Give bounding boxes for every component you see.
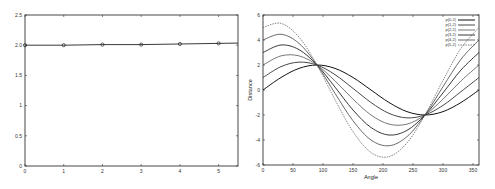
x-tick-label: 3	[140, 168, 143, 174]
x-tick-label: 1	[62, 168, 65, 174]
y-tick-label: 2.0	[15, 42, 22, 48]
x-tick-label: 200	[379, 167, 388, 173]
y-tick-label: 0	[257, 87, 260, 93]
y-tick-label: -2	[256, 112, 261, 118]
left-chart: 01234500.511.52.02.5	[15, 12, 238, 174]
x-tick-label: 50	[290, 167, 296, 173]
x-tick-label: 350	[469, 167, 478, 173]
y-tick-label: 2	[257, 62, 260, 68]
x-tick-label: 2	[101, 168, 104, 174]
y-tick-label: 2.5	[15, 12, 22, 18]
y-tick-label: 1	[19, 102, 22, 108]
legend-label: p(5,2)	[446, 42, 457, 47]
x-tick-label: 250	[409, 167, 418, 173]
plot-frame	[25, 15, 238, 166]
x-tick-label: 150	[349, 167, 358, 173]
x-tick-label: 100	[319, 167, 328, 173]
y-tick-label: -4	[256, 137, 261, 143]
x-axis-label: Angle	[364, 174, 378, 180]
y-tick-label: 6	[257, 12, 260, 18]
y-tick-label: 0.5	[15, 133, 22, 139]
x-tick-label: 4	[179, 168, 182, 174]
right-chart: 050100150200250300350-6-4-20246AngleDist…	[247, 12, 479, 180]
series-curve	[263, 65, 479, 115]
x-tick-label: 0	[262, 167, 265, 173]
y-tick-label: 4	[257, 37, 260, 43]
x-tick-label: 300	[439, 167, 448, 173]
figure: 01234500.511.52.02.5 0501001502002503003…	[0, 0, 495, 189]
legend: p(0,2)p(1,2)p(2,2)p(3,2)p(4,2)p(5,2)	[446, 17, 475, 47]
x-tick-label: 5	[217, 168, 220, 174]
y-tick-label: 1.5	[15, 72, 22, 78]
x-tick-label: 0	[24, 168, 27, 174]
y-tick-label: 0	[19, 163, 22, 169]
series-line	[25, 43, 238, 45]
y-tick-label: -6	[256, 162, 261, 168]
y-axis-label: Distance	[247, 79, 253, 100]
